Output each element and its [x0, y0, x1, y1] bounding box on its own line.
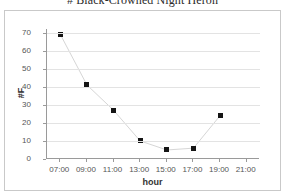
x-axis-title: hour	[46, 177, 259, 187]
x-tick-mark	[166, 159, 167, 162]
chart-title: # Black-Crowned Night Heron	[0, 0, 285, 8]
x-tick-mark	[246, 159, 247, 162]
x-tick-mark	[113, 159, 114, 162]
gridline	[47, 87, 260, 88]
y-tick-label: 60	[1, 47, 31, 55]
gridline	[47, 123, 260, 124]
x-tick-mark	[86, 159, 87, 162]
chart-frame: #F hour 706050403020100 07:0009:0011:001…	[4, 10, 281, 191]
y-tick-mark	[43, 159, 46, 160]
data-point	[164, 147, 169, 152]
series-line	[47, 29, 260, 159]
x-tick-mark	[219, 159, 220, 162]
x-tick-mark	[192, 159, 193, 162]
plot-area	[46, 29, 259, 159]
data-point	[111, 108, 116, 113]
y-tick-label: 10	[1, 137, 31, 145]
x-tick-mark	[59, 159, 60, 162]
x-tick-mark	[139, 159, 140, 162]
y-tick-label: 50	[1, 65, 31, 73]
x-tick-label: 21:00	[226, 165, 266, 174]
gridline	[47, 51, 260, 52]
data-point	[191, 146, 196, 151]
gridline	[47, 105, 260, 106]
data-point	[218, 113, 223, 118]
y-tick-label: 70	[1, 29, 31, 37]
y-tick-label: 20	[1, 119, 31, 127]
series-polyline	[60, 34, 220, 150]
chart-figure: # Black-Crowned Night Heron #F hour 7060…	[0, 0, 285, 193]
y-tick-label: 0	[1, 155, 31, 163]
gridline	[47, 141, 260, 142]
gridline	[47, 33, 260, 34]
y-tick-label: 40	[1, 83, 31, 91]
gridline	[47, 69, 260, 70]
y-tick-label: 30	[1, 101, 31, 109]
